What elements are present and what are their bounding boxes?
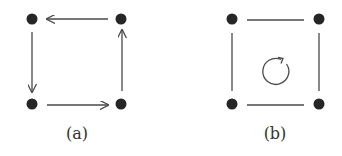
- panel-b: (b): [227, 14, 325, 144]
- node-a-top-right: [116, 14, 127, 25]
- diagram-canvas: (a) (b): [0, 0, 342, 156]
- node-b-top-right: [314, 14, 325, 25]
- panel-b-label: (b): [264, 124, 287, 143]
- node-a-bottom-right: [116, 99, 127, 110]
- node-a-bottom-left: [27, 99, 38, 110]
- node-b-bottom-left: [227, 99, 238, 110]
- node-b-bottom-right: [314, 99, 325, 110]
- panel-a-label: (a): [66, 124, 88, 143]
- node-b-top-left: [227, 14, 238, 25]
- panel-a: (a): [27, 14, 127, 144]
- circular-arrow-icon: [263, 58, 289, 85]
- node-a-top-left: [27, 14, 38, 25]
